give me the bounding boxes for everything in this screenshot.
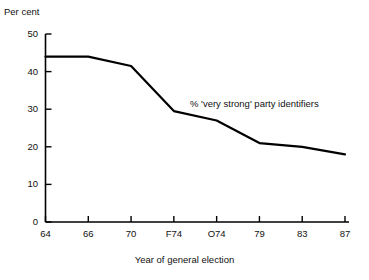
y-axis-tick-label: 0 bbox=[12, 217, 38, 227]
x-axis-tick-label: 64 bbox=[26, 229, 66, 239]
x-axis-title: Year of general election bbox=[0, 254, 369, 266]
y-axis-tick-label: 20 bbox=[12, 142, 38, 152]
x-axis-tick-label: F74 bbox=[154, 229, 194, 239]
y-axis-tick-label: 10 bbox=[12, 179, 38, 189]
x-axis-tick-label: 87 bbox=[325, 229, 365, 239]
x-axis-tick-label: 66 bbox=[68, 229, 108, 239]
y-axis-ticks bbox=[46, 34, 52, 222]
y-axis-tick-label: 40 bbox=[12, 67, 38, 77]
x-axis-ticks bbox=[46, 216, 346, 222]
y-axis-tick-label: 30 bbox=[12, 104, 38, 114]
x-axis-tick-label: 83 bbox=[282, 229, 322, 239]
series-annotation-label: % 'very strong' party identifiers bbox=[190, 98, 319, 110]
y-axis-tick-label: 50 bbox=[12, 29, 38, 39]
x-axis-tick-label: 79 bbox=[239, 229, 279, 239]
x-axis-tick-label: 70 bbox=[111, 229, 151, 239]
x-axis-tick-label: O74 bbox=[197, 229, 237, 239]
chart-figure: Per cent % 'very strong' party identifie… bbox=[0, 0, 369, 280]
axis-lines bbox=[46, 34, 350, 222]
y-axis-title: Per cent bbox=[4, 6, 39, 18]
